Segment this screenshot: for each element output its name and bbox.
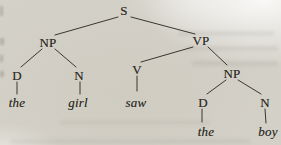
- tree-node-VP: VP: [192, 34, 209, 47]
- scanned-page: SNPVPDNVNPDNthegirlsawtheboy: [0, 0, 281, 145]
- syntax-tree-nodes: SNPVPDNVNPDNthegirlsawtheboy: [0, 0, 281, 145]
- tree-node-girl: girl: [68, 96, 88, 109]
- tree-node-NP1: NP: [39, 36, 56, 49]
- tree-node-S: S: [120, 4, 128, 17]
- tree-node-saw: saw: [126, 96, 147, 109]
- tree-node-the1: the: [9, 96, 25, 109]
- tree-node-N1: N: [74, 69, 84, 82]
- tree-node-V: V: [132, 63, 142, 76]
- tree-node-NP2: NP: [223, 67, 240, 80]
- tree-node-boy: boy: [258, 125, 277, 138]
- tree-node-the2: the: [198, 125, 214, 138]
- tree-node-D1: D: [12, 69, 22, 82]
- tree-node-N2: N: [260, 96, 270, 109]
- tree-node-D2: D: [198, 96, 208, 109]
